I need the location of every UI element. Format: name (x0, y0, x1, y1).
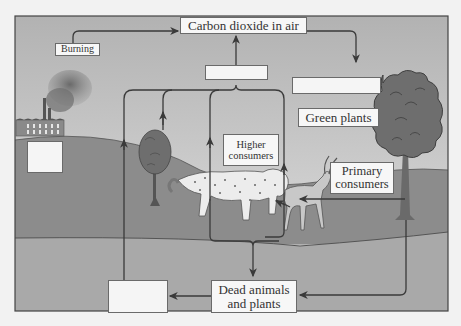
co2-in-air-label: Carbon dioxide in air (180, 17, 307, 34)
fossil-fuels-blank-box (27, 141, 63, 173)
carbon-cycle-diagram: Carbon dioxide in air Burning Green plan… (0, 0, 461, 326)
green-plants-label: Green plants (298, 108, 379, 127)
burning-label: Burning (55, 43, 100, 56)
dead-line1: Dead animals (218, 283, 289, 297)
dead-line2: and plants (227, 297, 280, 311)
photosynthesis-blank-box (292, 77, 381, 94)
decomposers-blank-box (108, 280, 168, 313)
dead-animals-plants-label: Dead animals and plants (211, 280, 297, 313)
primary-consumers-line2: consumers (335, 178, 388, 191)
primary-consumers-label: Primary consumers (330, 162, 394, 194)
higher-consumers-line2: consumers (229, 150, 274, 161)
higher-consumers-label: Higher consumers (223, 134, 279, 166)
respiration-blank-box (205, 65, 268, 80)
higher-consumers-line1: Higher (236, 139, 265, 150)
